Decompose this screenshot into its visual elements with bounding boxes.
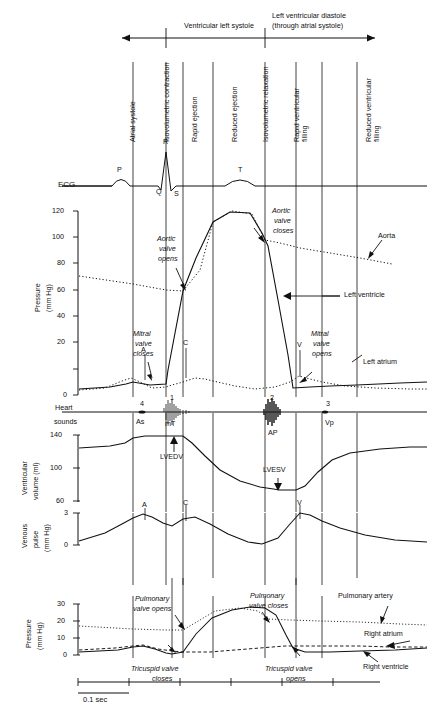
mitral-valve-closes-line1: Mitral — [133, 330, 151, 338]
phase-label-isovolumetric-contraction: Isovolumetric contraction — [163, 62, 171, 142]
ecg-wave-t: T — [238, 166, 242, 174]
aortic-valve-opens-line1: Aortic — [157, 235, 175, 243]
pulmonary-artery-label: Pulmonary artery — [338, 592, 393, 600]
volume-axis-label-line1: Ventricular — [20, 461, 29, 495]
aortic-valve-closes-line2: valve — [274, 217, 291, 225]
phase-diastole-label-line2: (through atrial systole) — [272, 22, 343, 30]
pressure-axis-label-line1: Pressure — [33, 283, 42, 312]
phase-diastole-label-line1: Left ventricular diastole — [272, 12, 346, 20]
aortic-valve-closes-line1: Aortic — [272, 207, 290, 215]
heart-sounds-label-line1: Heart — [55, 404, 73, 412]
heart-sound-component-as: As — [136, 418, 144, 426]
volume-tick-60: 60 — [56, 497, 64, 505]
right-pressure-axis-label-line1: Pressure — [24, 619, 33, 648]
volume-tick-100: 100 — [50, 464, 62, 472]
venous-axis-label-line2: pulse — [31, 531, 40, 548]
wiggers-diagram: Ventricular left systole Left ventricula… — [0, 0, 427, 716]
volume-tick-140: 140 — [50, 431, 62, 439]
mitral-valve-opens-line1: Mitral — [311, 330, 329, 338]
pulmonary-valve-opens-line1: Pulmonary — [135, 595, 169, 603]
phase-label-rapid-ventricular-filling: Rapid ventricular filling — [293, 72, 310, 142]
phase-label-rapid-ejection: Rapid ejection — [190, 96, 199, 142]
aorta-label: Aorta — [378, 232, 395, 240]
pressure-tick-120: 120 — [52, 207, 64, 215]
mitral-valve-opens-line2: valve — [313, 340, 330, 348]
aortic-valve-opens-line2: valve — [159, 245, 176, 253]
aortic-valve-closes-line3: closes — [273, 227, 293, 235]
left-atrium-label: Left atrium — [363, 358, 397, 366]
mitral-valve-opens-line3: opens — [312, 350, 332, 358]
ecg-wave-r: R — [163, 138, 168, 146]
pressure-tick-40: 40 — [57, 312, 65, 320]
pressure-tick-100: 100 — [52, 233, 64, 241]
phase-label-atrial-systole: Atrial systole — [128, 101, 137, 142]
phase-label-reduced-ejection: Reduced ejection — [230, 86, 239, 142]
phase-label-isovolumetric-relaxation: Isovolumetric relaxation — [262, 64, 270, 142]
pressure-tick-80: 80 — [57, 259, 65, 267]
heart-sound-component-vp: Vp — [325, 419, 334, 427]
tricuspid-valve-closes-line2: closes — [152, 675, 172, 683]
aortic-valve-opens-line3: opens — [158, 255, 178, 263]
heart-sound-number-2: 2 — [270, 394, 274, 402]
phase-label-reduced-ventricular-filling: Reduced ventricular filling — [365, 70, 382, 142]
venous-axis-label-line1: Venous — [20, 524, 29, 548]
right-atrium-label: Right atrium — [364, 630, 403, 638]
volume-axis-label-line2: volume (ml) — [31, 462, 40, 500]
tricuspid-valve-opens-line1: Tricuspid valve — [265, 665, 312, 673]
pulmonary-valve-opens-line2: valve opens — [133, 605, 171, 613]
venous-axis-label-line3: (mm Hg) — [42, 524, 51, 552]
phase-systole-label: Ventricular left systole — [176, 22, 262, 30]
venous-tick-3: 3 — [64, 509, 68, 517]
right-ventricle-label: Right ventricle — [363, 663, 409, 671]
heart-sound-number-1: 1 — [170, 394, 174, 402]
heart-sound-number-3: 3 — [326, 400, 330, 408]
lvedv-label: LVEDV — [160, 453, 183, 461]
ecg-wave-q: Q — [156, 188, 162, 196]
lvesv-label: LVESV — [263, 466, 286, 474]
venous-wave-c: C — [183, 499, 188, 507]
time-scale-label: 0.1 sec — [83, 696, 107, 705]
pressure-tick-60: 60 — [57, 286, 65, 294]
right-pressure-tick-30: 30 — [57, 600, 65, 608]
venous-wave-v: V — [297, 499, 302, 507]
pulmonary-valve-closes-line2: valve closes — [249, 602, 288, 610]
ecg-axis-label: ECG — [58, 180, 75, 189]
venous-tick-0: 0 — [64, 541, 68, 549]
heart-sound-component-ap: AP — [268, 429, 278, 437]
heart-sound-component-mt: mT — [165, 420, 175, 428]
pulmonary-valve-closes-line1: Pulmonary — [250, 592, 284, 600]
right-pressure-axis-label-line2: (mm Hg) — [35, 622, 44, 650]
tricuspid-valve-opens-line2: opens — [286, 675, 306, 683]
heart-sounds-label-line2: sounds — [54, 418, 77, 426]
right-pressure-tick-20: 20 — [57, 617, 65, 625]
ecg-wave-s: S — [174, 190, 179, 198]
pressure-wave-c: C — [183, 339, 188, 347]
right-pressure-tick-0: 0 — [63, 651, 67, 659]
left-ventricle-label: Left ventricle — [344, 291, 385, 299]
ecg-wave-p: P — [117, 166, 122, 174]
right-pressure-tick-10: 10 — [57, 634, 65, 642]
pressure-tick-20: 20 — [57, 338, 65, 346]
pressure-tick-0: 0 — [63, 391, 67, 399]
heart-sound-number-4: 4 — [140, 400, 144, 408]
pressure-axis-label-line2: (mm Hg) — [44, 284, 53, 312]
pressure-wave-v: V — [297, 341, 302, 349]
venous-wave-a: A — [142, 501, 147, 509]
pressure-wave-a: A — [141, 346, 146, 354]
tricuspid-valve-closes-line1: Tricuspid valve — [131, 665, 178, 673]
